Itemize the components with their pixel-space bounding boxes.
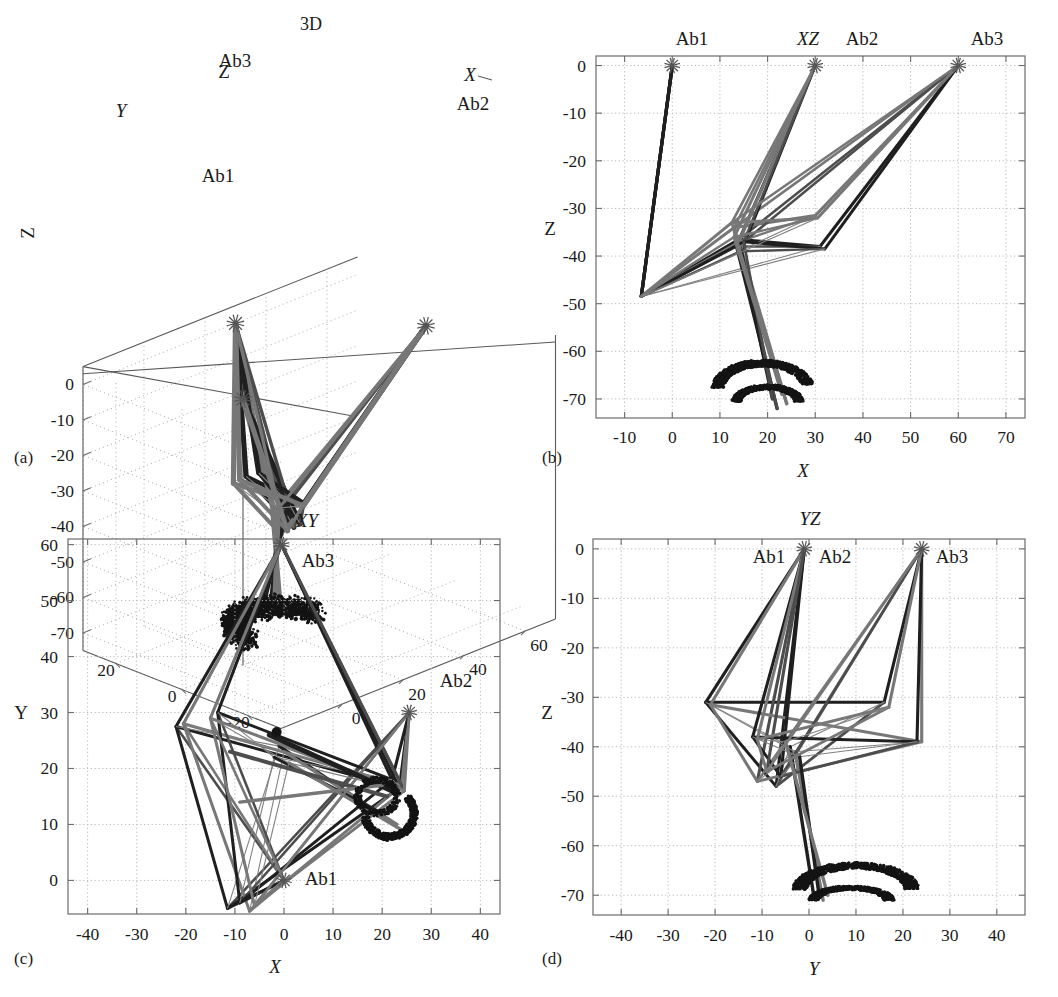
y-tick-label: -20 <box>561 638 585 658</box>
x-tick-label: 40 <box>988 925 1006 945</box>
y-tick-label: -70 <box>563 389 587 409</box>
point-cloud-group <box>730 383 804 403</box>
cable-segment <box>744 66 816 242</box>
cable-segment-3d <box>279 326 426 508</box>
x-tick-label: -30 <box>656 925 680 945</box>
z-tickmark-3d <box>83 381 91 384</box>
panel-c-mechanism <box>176 545 409 912</box>
x-tick-label: 20 <box>759 427 777 447</box>
x-tick-label: 60 <box>950 427 968 447</box>
panel-d-y-axis-name: Z <box>541 702 553 723</box>
panel-d-label-ab3: Ab3 <box>936 546 969 567</box>
panel-c-y-axis-name: Y <box>14 702 28 723</box>
platform-hub <box>272 727 282 737</box>
y-tick-label: 0 <box>49 870 58 890</box>
y-tick-label: -10 <box>563 103 587 123</box>
panel-d-svg: -40-30-20-100102030400-10-20-30-40-50-60… <box>528 497 1058 997</box>
panel-b-xz-view: -100102030405060700-10-20-30-40-50-60-70… <box>528 0 1058 497</box>
y-tick-label: -50 <box>561 786 585 806</box>
caption-d: (d) <box>542 949 562 969</box>
point-cloud-group <box>353 775 401 817</box>
plot-box <box>68 539 500 914</box>
y-tick-label: -70 <box>561 885 585 905</box>
z-tick-label-3d: -10 <box>51 410 75 430</box>
y-tick-label: -50 <box>563 294 587 314</box>
panel-b-x-axis-name: X <box>796 460 810 481</box>
panel-c-box <box>68 539 500 914</box>
y-tick-label: -20 <box>563 151 587 171</box>
panel-c-xy-view: -40-30-20-100102030400102030405060 XY Ab… <box>0 497 530 997</box>
y-tick-label: 30 <box>41 703 59 723</box>
panel-c-label-ab3: Ab3 <box>302 550 335 571</box>
y-tick-label: -10 <box>561 588 585 608</box>
axis-edge-3d <box>83 367 354 417</box>
x-tick-label: 40 <box>472 924 490 944</box>
caption-b: (b) <box>542 448 562 468</box>
x-tick-label: 30 <box>423 924 441 944</box>
panel-a-y-axis-name: Y <box>116 100 129 121</box>
panel-d-title: YZ <box>799 508 821 529</box>
panel-b-y-axis-name: Z <box>544 218 556 239</box>
cable-segment <box>710 705 757 782</box>
panel-a-svg: 0-10-20-30-40-50-60-70200-200204060 3D Z… <box>0 0 530 497</box>
panel-a-label-ab2: Ab2 <box>457 93 490 114</box>
y-tick-label: 0 <box>577 56 586 76</box>
y-tick-label: 10 <box>41 814 59 834</box>
panel-b-label-ab3: Ab3 <box>971 28 1004 49</box>
x-tick-label: -30 <box>125 924 149 944</box>
panel-a-x-axis-arrow <box>478 76 492 80</box>
panel-a-label-ab1: Ab1 <box>202 165 235 186</box>
panel-a-3d-view: 0-10-20-30-40-50-60-70200-200204060 3D Z… <box>0 0 530 497</box>
panel-b-label-ab2: Ab2 <box>846 28 879 49</box>
cable-segment-3d <box>303 326 426 506</box>
caption-c: (c) <box>14 949 33 969</box>
panel-c-grid <box>68 539 500 914</box>
cable-segment <box>210 545 281 719</box>
x-tick-label: -40 <box>76 924 100 944</box>
z-tick-label-3d: 0 <box>65 374 74 394</box>
y-tick-label: -60 <box>563 341 587 361</box>
panel-b-label-ab1: Ab1 <box>676 28 709 49</box>
x-tick-label: -10 <box>613 427 637 447</box>
x-tick-label: 10 <box>324 924 342 944</box>
grid-segment-3d <box>83 275 358 385</box>
cable-segment <box>282 545 405 791</box>
y-tick-label: 50 <box>41 591 59 611</box>
x-tick-label: 10 <box>711 427 729 447</box>
y-tick-label: 0 <box>575 539 584 559</box>
axis-edge-3d <box>83 342 556 374</box>
panel-a-label-ab3: Ab3 <box>219 50 252 71</box>
y-tick-label: -30 <box>563 198 587 218</box>
y-tick-label: -30 <box>561 687 585 707</box>
panel-a-title: 3D <box>300 14 322 34</box>
panel-a-z-label-side: Z <box>17 227 38 239</box>
plot-box <box>596 56 1025 418</box>
z-tickmark-3d <box>83 488 91 491</box>
x-tick-label: -10 <box>223 924 247 944</box>
y-tick-label: 60 <box>41 535 59 555</box>
cable-segment <box>818 66 959 218</box>
panel-c-x-axis-name: X <box>268 956 282 977</box>
panel-d-label-ab2: Ab2 <box>819 546 852 567</box>
x-tick-label: 50 <box>902 427 920 447</box>
panel-b-point-cloud <box>710 358 813 403</box>
y-tick-label: -40 <box>563 246 587 266</box>
panel-b-title: XZ <box>796 28 820 49</box>
panel-d-x-axis-name: Y <box>809 958 822 979</box>
x-tick-label: 0 <box>805 925 814 945</box>
panel-b-grid <box>596 56 1025 418</box>
x-tick-label: 20 <box>894 925 912 945</box>
panel-b-box <box>596 56 1025 418</box>
x-tick-label: -20 <box>174 924 198 944</box>
y-tick-label: -40 <box>561 737 585 757</box>
panel-c-title: XY <box>295 510 321 531</box>
x-tick-label: -10 <box>750 925 774 945</box>
x-tick-label: -20 <box>703 925 727 945</box>
z-tick-label-3d: -20 <box>51 445 75 465</box>
panel-b-svg: -100102030405060700-10-20-30-40-50-60-70… <box>528 0 1058 497</box>
x-tick-label: 30 <box>807 427 825 447</box>
axis-edge-3d <box>83 257 358 367</box>
cable-segment <box>641 66 672 297</box>
x-tick-label: 70 <box>997 427 1015 447</box>
x-tick-label: 0 <box>668 427 677 447</box>
